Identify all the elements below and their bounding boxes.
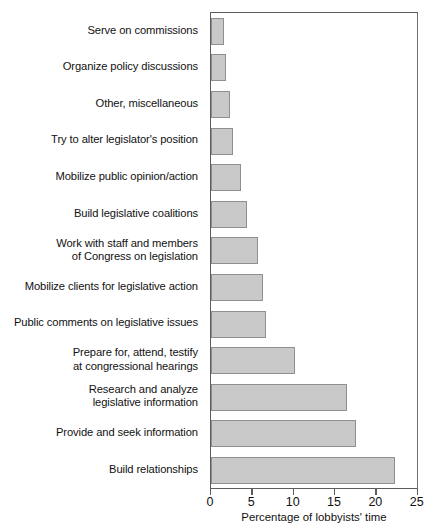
category-label: Serve on commissions <box>0 12 205 49</box>
bar <box>211 54 226 81</box>
category-label: Provide and seek information <box>0 415 205 452</box>
bar <box>211 457 395 484</box>
category-label-line: Work with staff and members <box>0 237 198 250</box>
category-label: Research and analyzelegislative informat… <box>0 378 205 415</box>
x-tick-label: 15 <box>327 495 341 510</box>
category-label: Try to alter legislator's position <box>0 122 205 159</box>
category-label-line: Serve on commissions <box>0 24 198 37</box>
category-label-line: Organize policy discussions <box>0 60 198 73</box>
category-label-line: Prepare for, attend, testify <box>0 346 198 359</box>
category-label: Mobilize public opinion/action <box>0 158 205 195</box>
bars-layer <box>211 13 417 488</box>
category-label-line: Build relationships <box>0 463 198 476</box>
category-label: Public comments on legislative issues <box>0 305 205 342</box>
category-label: Work with staff and membersof Congress o… <box>0 232 205 269</box>
x-axis-title: Percentage of lobbyists' time <box>210 510 418 524</box>
bar <box>211 311 266 338</box>
bar <box>211 201 247 228</box>
category-label: Prepare for, attend, testifyat congressi… <box>0 341 205 378</box>
bar <box>211 384 347 411</box>
category-label-line: at congressional hearings <box>0 360 198 373</box>
bar <box>211 347 295 374</box>
x-tick-label: 0 <box>207 495 214 510</box>
bar <box>211 128 233 155</box>
category-label-line: Build legislative coalitions <box>0 207 198 220</box>
plot-area <box>210 12 418 489</box>
x-tick-label: 5 <box>248 495 255 510</box>
category-label-line: Provide and seek information <box>0 426 198 439</box>
bar <box>211 18 224 45</box>
category-label: Mobilize clients for legislative action <box>0 268 205 305</box>
category-label: Build relationships <box>0 451 205 488</box>
category-label-line: legislative information <box>0 396 198 409</box>
category-label: Organize policy discussions <box>0 49 205 86</box>
category-label-line: Public comments on legislative issues <box>0 316 198 329</box>
category-label-line: Mobilize public opinion/action <box>0 170 198 183</box>
x-tick-label: 10 <box>286 495 300 510</box>
category-label-line: of Congress on legislation <box>0 250 198 263</box>
bar <box>211 237 258 264</box>
category-label: Build legislative coalitions <box>0 195 205 232</box>
category-label-line: Mobilize clients for legislative action <box>0 280 198 293</box>
category-axis: Serve on commissionsOrganize policy disc… <box>0 12 205 489</box>
bar <box>211 164 241 191</box>
x-tick-label: 20 <box>368 495 382 510</box>
bar <box>211 420 356 447</box>
category-label-line: Try to alter legislator's position <box>0 133 198 146</box>
category-label-line: Other, miscellaneous <box>0 97 198 110</box>
x-tick-label: 25 <box>410 495 424 510</box>
category-label-line: Research and analyze <box>0 383 198 396</box>
category-label: Other, miscellaneous <box>0 85 205 122</box>
bar <box>211 274 263 301</box>
bar-chart-figure: Serve on commissionsOrganize policy disc… <box>0 0 442 532</box>
bar <box>211 91 230 118</box>
